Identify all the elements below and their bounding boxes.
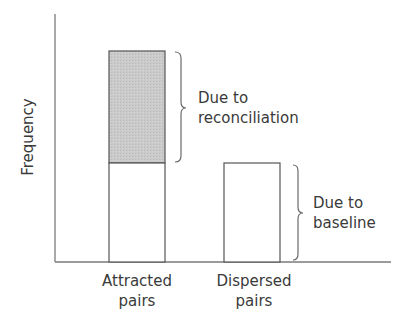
chart: Frequency Due to reconciliation Due to b… [0, 0, 407, 329]
category-label-dispersed-line2: pairs [236, 292, 273, 310]
category-label-attracted-line2: pairs [119, 292, 156, 310]
bar-segment-baseline [109, 163, 165, 262]
annotation-reconciliation-line1: Due to [198, 89, 248, 107]
bar-dispersed-pairs [224, 163, 280, 262]
brace-baseline-icon [293, 165, 303, 260]
y-axis-label: Frequency [19, 98, 37, 176]
bar-attracted-pairs [109, 51, 165, 262]
bar-segment-reconciliation [109, 51, 165, 163]
category-label-attracted-line1: Attracted [102, 272, 172, 290]
annotation-baseline-line1: Due to [313, 194, 363, 212]
annotation-reconciliation-line2: reconciliation [198, 109, 299, 127]
annotation-baseline-line2: baseline [313, 214, 376, 232]
brace-reconciliation-icon [175, 52, 186, 162]
category-label-dispersed-line1: Dispersed [216, 272, 291, 290]
